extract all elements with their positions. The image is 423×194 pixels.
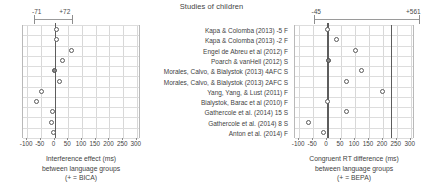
gridline-horizontal — [295, 76, 413, 77]
ci-cap-low-right — [314, 15, 315, 24]
axis-tick-label: 300 — [131, 140, 142, 147]
gridline-vertical — [341, 25, 342, 138]
gridline-horizontal — [295, 66, 413, 67]
axis-tick-label: 0 — [324, 140, 328, 147]
study-label: Morales, Calvo, & Bialystok (2013) 4AFC … — [164, 68, 288, 75]
gridline-horizontal — [23, 128, 139, 129]
study-label: Poarch & vanHell (2012) S — [211, 57, 288, 64]
x-axis-right: -100-50050100150200250300 — [294, 138, 414, 152]
gridline-vertical — [41, 25, 42, 138]
data-point — [344, 109, 349, 114]
ci-low-label-right: -45 — [312, 8, 321, 15]
plot-area-right — [294, 25, 414, 138]
ci-line-left — [34, 19, 73, 20]
summary-ci-bar-right — [314, 15, 420, 24]
axis-caption-line: between language groups — [8, 164, 154, 174]
study-label: Kapa & Colomba (2013) -5 F — [205, 27, 288, 34]
gridline-horizontal — [23, 87, 139, 88]
data-point — [321, 130, 326, 135]
gridline-horizontal — [295, 117, 413, 118]
gridline-horizontal — [295, 56, 413, 57]
data-point — [57, 79, 62, 84]
axis-tick-label: 50 — [64, 140, 71, 147]
axis-caption-line: Interference effect (ms) — [8, 154, 154, 164]
axis-tick-label: -50 — [308, 140, 317, 147]
ci-line-right — [314, 19, 420, 20]
gridline-horizontal — [23, 117, 139, 118]
gridline-vertical — [369, 25, 370, 138]
gridline-horizontal — [295, 35, 413, 36]
ci-cap-low-left — [34, 15, 35, 24]
ci-cap-high-left — [72, 15, 73, 24]
data-point — [306, 120, 311, 125]
axis-tick-label: 100 — [349, 140, 360, 147]
data-point — [49, 120, 54, 125]
study-label: Bialystok, Barac et al (2010) F — [201, 99, 288, 106]
data-point — [34, 99, 39, 104]
axis-tick-label: 0 — [52, 140, 56, 147]
axis-caption-line: Congruent RT difference (ms) — [280, 154, 423, 164]
gridline-vertical — [137, 25, 138, 138]
gridline-horizontal — [295, 25, 413, 26]
gridline-vertical — [397, 25, 398, 138]
gridline-vertical — [355, 25, 356, 138]
data-point — [39, 89, 44, 94]
plot-area-left — [22, 25, 140, 138]
gridline-horizontal — [23, 35, 139, 36]
gridline-horizontal — [23, 66, 139, 67]
axis-tick-label: 200 — [103, 140, 114, 147]
gridline-vertical — [27, 25, 28, 138]
gridline-vertical — [313, 25, 314, 138]
x-axis-left: -100-50050100150200250300 — [22, 138, 140, 152]
axis-caption-line: (+ = BEPA) — [280, 173, 423, 183]
gridline-horizontal — [23, 107, 139, 108]
x-axis-caption-right: Congruent RT difference (ms)between lang… — [280, 154, 423, 183]
data-point — [60, 58, 65, 63]
data-point — [69, 48, 74, 53]
gridline-horizontal — [23, 46, 139, 47]
study-label: Morales, Calvo, & Bialystok (2013) 2AFC … — [164, 78, 288, 85]
study-label: Engel de Abreu et al (2012) F — [203, 47, 288, 54]
axis-tick-label: 100 — [76, 140, 87, 147]
gridline-horizontal — [295, 46, 413, 47]
zero-line — [327, 23, 329, 138]
study-label: Yang, Yang, & Lust (2011) F — [207, 88, 288, 95]
axis-tick-label: 250 — [391, 140, 402, 147]
study-label: Kapa & Colomba (2013) -2 F — [205, 37, 288, 44]
gridline-horizontal — [295, 97, 413, 98]
axis-tick-label: 50 — [337, 140, 344, 147]
gridline-vertical — [299, 25, 300, 138]
ci-cap-high-right — [419, 15, 420, 24]
gridline-horizontal — [23, 76, 139, 77]
data-point — [325, 27, 330, 32]
gridline-horizontal — [23, 97, 139, 98]
data-point — [52, 68, 57, 73]
axis-caption-line: between language groups — [280, 164, 423, 174]
axis-caption-line: (+ = BICA) — [8, 173, 154, 183]
gridline-vertical — [411, 25, 412, 138]
forest-plot-figure: Studies of children -71 +72 -100-5005010… — [0, 0, 423, 194]
gridline-vertical — [123, 25, 124, 138]
data-point — [325, 99, 330, 104]
gridline-horizontal — [295, 107, 413, 108]
study-label: Gathercole et al. (2014) 8 S — [208, 119, 288, 126]
gridline-vertical — [82, 25, 83, 138]
axis-tick-label: 300 — [405, 140, 416, 147]
ci-low-label-left: -71 — [32, 8, 41, 15]
axis-tick-label: 250 — [117, 140, 128, 147]
gridline-vertical — [96, 25, 97, 138]
data-point — [54, 37, 59, 42]
axis-tick-label: -50 — [35, 140, 44, 147]
axis-tick-label: 200 — [377, 140, 388, 147]
gridline-horizontal — [23, 56, 139, 57]
gridline-horizontal — [295, 128, 413, 129]
reference-line — [391, 25, 392, 138]
study-label: Anton et al. (2014) F — [229, 129, 288, 136]
data-point — [380, 89, 385, 94]
data-point — [359, 68, 364, 73]
data-point — [54, 27, 59, 32]
data-point — [353, 48, 358, 53]
gridline-vertical — [383, 25, 384, 138]
gridline-vertical — [68, 25, 69, 138]
data-point — [344, 79, 349, 84]
